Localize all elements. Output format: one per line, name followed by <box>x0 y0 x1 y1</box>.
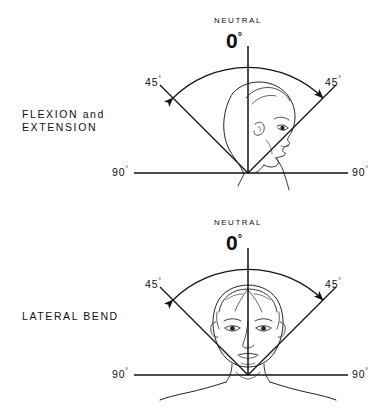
diagram-svg <box>0 0 392 415</box>
angle-label-90-right-bottom: 90° <box>352 367 369 380</box>
degree-symbol-45-right-bottom: ° <box>338 277 342 284</box>
angle-label-90-right-top: 90° <box>352 165 369 178</box>
degree-symbol-90-left-top: ° <box>125 165 129 172</box>
angle-value-90-right-top: 90 <box>352 166 365 178</box>
degree-symbol-45-left-bottom: ° <box>158 277 162 284</box>
degree-symbol-45-right-top: ° <box>338 75 342 82</box>
angle-label-45-right-top: 45° <box>325 75 342 88</box>
angle-label-45-left-top: 45° <box>145 75 162 88</box>
panel-label-line-1: FLEXION and <box>22 108 105 121</box>
panel-label-flexion-extension: FLEXION and EXTENSION <box>22 108 105 134</box>
panel-label-lateral-bend: LATERAL BEND <box>22 310 119 323</box>
panel-label-line-1-bottom: LATERAL BEND <box>22 310 119 323</box>
diagram-artwork <box>0 0 392 415</box>
angle-value-90-left-top: 90 <box>112 166 125 178</box>
angle-label-90-left-top: 90° <box>112 165 129 178</box>
zero-value-bottom: 0 <box>226 231 238 254</box>
neutral-zero-degree-bottom: 0° <box>226 228 242 253</box>
degree-symbol-90-right-bottom: ° <box>365 367 369 374</box>
degree-symbol-90-left-bottom: ° <box>125 367 129 374</box>
panel-label-line-2: EXTENSION <box>22 121 105 134</box>
angle-value-90-right-bottom: 90 <box>352 368 365 380</box>
degree-symbol-45-left-top: ° <box>158 75 162 82</box>
angle-value-45-right-bottom: 45 <box>325 278 338 290</box>
angle-value-90-left-bottom: 90 <box>112 368 125 380</box>
neutral-zero-degree-top: 0° <box>226 26 242 51</box>
degree-symbol-bottom: ° <box>238 232 242 244</box>
angle-value-45-left-bottom: 45 <box>145 278 158 290</box>
angle-label-90-left-bottom: 90° <box>112 367 129 380</box>
cervical-range-of-motion-diagram: FLEXION and EXTENSION NEUTRAL 0° 45° 45°… <box>0 0 392 415</box>
neutral-label-top: NEUTRAL <box>214 16 262 25</box>
angle-value-45-left-top: 45 <box>145 76 158 88</box>
panel-flexion-extension-graphics <box>134 46 348 190</box>
degree-symbol-90-right-top: ° <box>365 165 369 172</box>
angle-label-45-right-bottom: 45° <box>325 277 342 290</box>
panel-lateral-bend-graphics <box>134 248 348 400</box>
neutral-label-bottom: NEUTRAL <box>214 218 262 227</box>
angle-value-45-right-top: 45 <box>325 76 338 88</box>
zero-value-top: 0 <box>226 29 238 52</box>
degree-symbol-top: ° <box>238 30 242 42</box>
angle-label-45-left-bottom: 45° <box>145 277 162 290</box>
